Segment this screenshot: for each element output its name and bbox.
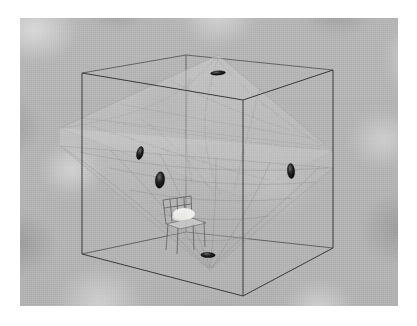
screenshot-canvas (0, 0, 417, 326)
acoustic-volume (60, 55, 333, 270)
render-viewport (20, 18, 398, 306)
3d-scene (20, 18, 398, 306)
